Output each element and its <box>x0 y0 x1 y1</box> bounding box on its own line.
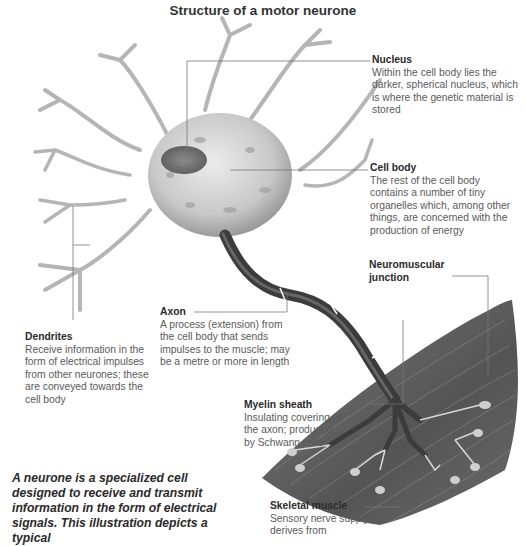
label-skeletal-muscle-text: Sensory nerve supply derives from <box>270 513 369 537</box>
label-cell-body: Cell body The rest of the cell body cont… <box>370 162 520 238</box>
label-axon-text: A process (extension) from the cell body… <box>160 319 290 368</box>
label-myelin-sheath-text: Insulating covering of the axon; produce… <box>244 412 341 448</box>
label-myelin-sheath-heading: Myelin sheath <box>244 399 344 412</box>
label-dendrites: Dendrites Receive information in the for… <box>25 331 150 407</box>
caption: A neurone is a specialized cell designed… <box>12 471 242 546</box>
label-dendrites-heading: Dendrites <box>25 331 150 344</box>
label-neuromuscular-junction: Neuromuscular junction <box>369 259 449 284</box>
label-skeletal-muscle-heading: Skeletal muscle <box>270 500 380 513</box>
label-skeletal-muscle: Skeletal muscle Sensory nerve supply der… <box>270 500 380 538</box>
label-cell-body-text: The rest of the cell body contains a num… <box>370 175 510 236</box>
label-myelin-sheath: Myelin sheath Insulating covering of the… <box>244 399 344 449</box>
label-nucleus: Nucleus Within the cell body lies the da… <box>372 54 522 117</box>
label-nucleus-text: Within the cell body lies the darker, sp… <box>372 67 518 116</box>
label-nucleus-heading: Nucleus <box>372 54 522 67</box>
nucleus-shape <box>161 146 207 174</box>
label-axon: Axon A process (extension) from the cell… <box>160 306 290 369</box>
label-neuromuscular-junction-heading: Neuromuscular junction <box>369 259 449 284</box>
label-cell-body-heading: Cell body <box>370 162 520 175</box>
label-dendrites-text: Receive information in the form of elect… <box>25 344 149 405</box>
label-axon-heading: Axon <box>160 306 290 319</box>
